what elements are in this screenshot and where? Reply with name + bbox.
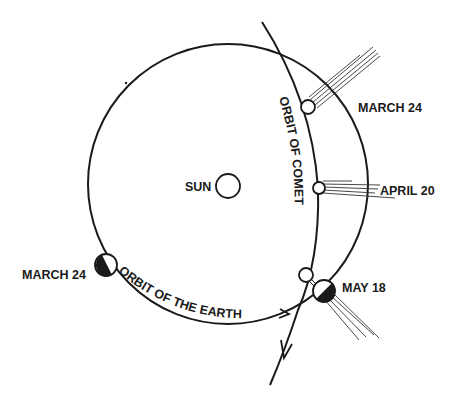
comet-march-24-label: MARCH 24 (358, 101, 422, 115)
earth-may-18-label: MAY 18 (342, 281, 386, 295)
comet-orbit (262, 22, 318, 385)
comet-may-18-icon (299, 268, 313, 282)
comet-orbit-label: ORBIT OF COMET (276, 95, 306, 205)
sun-label: SUN (185, 180, 211, 194)
sun-icon (216, 174, 240, 198)
comet-icon (313, 182, 325, 194)
comet-icon (301, 100, 315, 114)
orbit-tick-mark (125, 82, 127, 84)
earth-march-24 (95, 254, 117, 276)
comet-april-20-label: APRIL 20 (380, 184, 435, 198)
earth-orbit-label: ORBIT OF THE EARTH (116, 263, 242, 321)
comet-orbit-diagram: SUN MARCH 24 APRIL 20 MAY 18 MARCH 24 (0, 0, 462, 403)
earth-march-24-label: MARCH 24 (22, 268, 86, 282)
